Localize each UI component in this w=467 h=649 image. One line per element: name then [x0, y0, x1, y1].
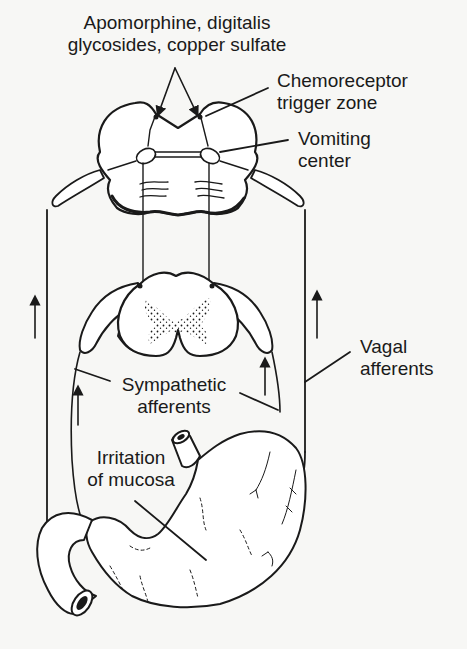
- vagal-afferents-label-line1: Vagal: [360, 336, 434, 358]
- vagal-afferents-label: Vagal afferents: [360, 336, 434, 380]
- irritation-label-line1: Irritation: [78, 447, 184, 469]
- sympathetic-leader-left: [75, 369, 110, 381]
- vomiting-center-label-line1: Vomiting: [298, 128, 371, 150]
- vomiting-center-label-line2: center: [298, 150, 371, 172]
- vagal-leader: [305, 352, 350, 382]
- vomiting-center-label: Vomiting center: [298, 128, 371, 172]
- sympathetic-leader-right: [240, 393, 278, 410]
- drugs-label-line1: Apomorphine, digitalis: [62, 12, 292, 34]
- sympathetic-afferents-label-line1: Sympathetic: [110, 374, 238, 396]
- spinal-cord-section: [80, 273, 273, 356]
- drug-arrows: [159, 68, 196, 112]
- ctz-label-line2: trigger zone: [277, 92, 408, 114]
- medulla-section: [98, 102, 258, 282]
- sympathetic-afferents-label-line2: afferents: [110, 396, 238, 418]
- vagal-afferents-label-line2: afferents: [360, 358, 434, 380]
- sympathetic-afferents-label: Sympathetic afferents: [110, 374, 238, 418]
- drugs-label-line2: glycosides, copper sulfate: [62, 34, 292, 56]
- irritation-label-line2: of mucosa: [78, 469, 184, 491]
- diagram-canvas: Apomorphine, digitalis glycosides, coppe…: [0, 0, 467, 649]
- irritation-label: Irritation of mucosa: [78, 447, 184, 491]
- ctz-label: Chemoreceptor trigger zone: [277, 70, 408, 114]
- drugs-label: Apomorphine, digitalis glycosides, coppe…: [62, 12, 292, 56]
- ctz-label-line1: Chemoreceptor: [277, 70, 408, 92]
